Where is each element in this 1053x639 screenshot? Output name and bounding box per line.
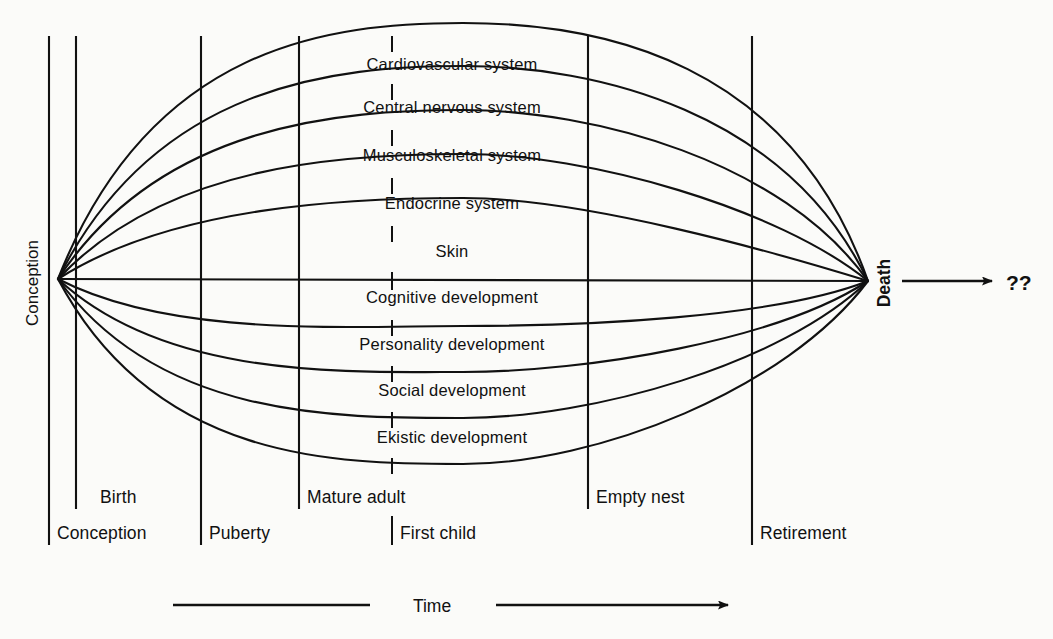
curve-label-central-nervous: Central nervous system bbox=[363, 98, 541, 116]
beyond-death-question-label: ?? bbox=[1006, 271, 1032, 294]
stage-label-birth: Birth bbox=[100, 487, 136, 507]
curve-label-personality: Personality development bbox=[359, 335, 545, 353]
stage-label-first-child: First child bbox=[400, 523, 476, 543]
curve-label-endocrine: Endocrine system bbox=[385, 194, 519, 212]
curve-label-skin: Skin bbox=[436, 242, 469, 260]
stage-label-puberty: Puberty bbox=[209, 523, 270, 543]
curve-label-social: Social development bbox=[378, 381, 526, 399]
curve-label-cognitive: Cognitive development bbox=[366, 288, 538, 306]
curve-label-cardiovascular: Cardiovascular system bbox=[366, 55, 537, 73]
curve-label-ekistic: Ekistic development bbox=[377, 428, 528, 446]
life-span-development-figure: Cardiovascular system Central nervous sy… bbox=[0, 0, 1053, 639]
stage-label-empty-nest: Empty nest bbox=[596, 487, 685, 507]
stage-label-mature-adult: Mature adult bbox=[307, 487, 406, 507]
curve-label-musculoskeletal: Musculoskeletal system bbox=[363, 146, 542, 164]
axis-label-death: Death bbox=[874, 259, 894, 308]
diagram-canvas: Cardiovascular system Central nervous sy… bbox=[0, 0, 1053, 639]
curve-endocrine bbox=[58, 154, 868, 281]
curve-baseline-axis bbox=[58, 279, 868, 281]
stage-labels: Conception Birth Puberty Mature adult Fi… bbox=[57, 487, 847, 543]
stage-label-retirement: Retirement bbox=[760, 523, 847, 543]
curve-labels: Cardiovascular system Central nervous sy… bbox=[359, 55, 545, 446]
stage-label-conception: Conception bbox=[57, 523, 147, 543]
axis-label-conception: Conception bbox=[23, 240, 42, 326]
time-axis-label: Time bbox=[413, 596, 451, 616]
